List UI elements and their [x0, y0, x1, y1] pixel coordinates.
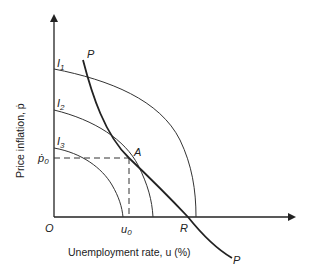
indifference-curve-1: [54, 69, 196, 217]
origin-label: O: [45, 222, 54, 234]
point-a-label: A: [133, 146, 141, 158]
x-axis-title: Unemployment rate, u (%): [68, 246, 191, 258]
label-p-bottom: P: [233, 254, 241, 266]
indifference-curve-2: [54, 110, 153, 217]
u0-label: u0: [121, 223, 132, 237]
phillips-curve: [83, 60, 232, 258]
point-r-label: R: [180, 222, 188, 234]
label-p-top: P: [87, 48, 95, 60]
y-axis-title: Price inflation, ṗ: [14, 103, 26, 178]
diagram-canvas: I1 I2 I3 P P A R O u0 ṗ0 Unemployment ra…: [0, 0, 310, 270]
label-i2: I2: [57, 97, 65, 112]
label-i3: I3: [57, 135, 65, 150]
p0-label: ṗ0: [37, 152, 49, 166]
